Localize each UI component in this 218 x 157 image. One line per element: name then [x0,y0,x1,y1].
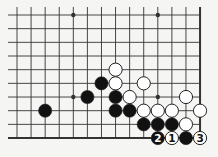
white-stone [123,90,136,103]
star-point-icon [71,13,75,17]
black-stone [165,118,178,131]
go-diagram: 213 [0,0,218,157]
black-stone [179,131,192,144]
black-stone [109,90,122,103]
white-stone: 3 [193,131,206,144]
black-stone [137,118,150,131]
black-stone [39,104,52,117]
move-number-label: 2 [154,132,161,144]
white-stone [109,63,122,76]
move-number-label: 1 [168,132,175,144]
white-stone [179,118,192,131]
white-stone [151,104,164,117]
black-stone [123,104,136,117]
white-stone [179,90,192,103]
black-stone [95,77,108,90]
black-stone [81,90,94,103]
white-stone [137,104,150,117]
black-stone [151,118,164,131]
star-point-icon [156,13,160,17]
go-board: 213 [0,0,218,157]
move-number-label: 3 [196,132,203,144]
white-stone [193,104,206,117]
black-stone: 2 [151,131,164,144]
star-point-icon [156,95,160,99]
white-stone: 1 [165,131,178,144]
stones: 213 [39,63,207,145]
white-stone [137,77,150,90]
white-stone [109,77,122,90]
star-point-icon [71,95,75,99]
black-stone [109,104,122,117]
white-stone [165,104,178,117]
